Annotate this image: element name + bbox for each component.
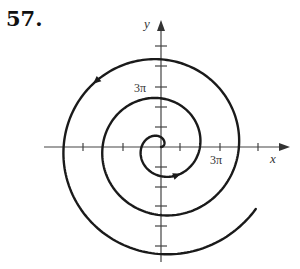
y-tick-label-3pi: 3π <box>134 81 146 95</box>
spiral-curve <box>63 59 255 254</box>
direction-arrow-icon <box>172 173 181 180</box>
x-axis-label: x <box>269 151 276 166</box>
x-tick-label-3pi: 3π <box>210 153 222 167</box>
y-axis-label: y <box>142 16 150 31</box>
spiral-diagram: x y 3π 3π <box>0 0 300 269</box>
x-axis-arrow-icon <box>279 143 290 151</box>
x-axis <box>44 143 290 151</box>
y-axis-arrow-icon <box>157 20 165 31</box>
